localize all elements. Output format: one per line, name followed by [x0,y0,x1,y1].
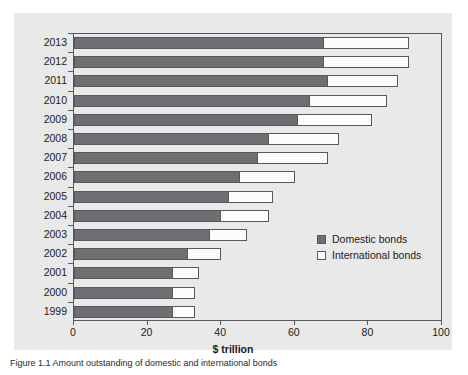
x-tick-label: 20 [141,326,153,338]
bar-row [74,303,441,322]
y-tick-label: 2008 [44,129,67,148]
y-tick-mark [68,302,73,303]
legend-label-international: International bonds [332,249,421,261]
x-tick-label: 60 [288,326,300,338]
y-tick-label: 2004 [44,206,67,225]
legend-label-domestic: Domestic bonds [332,233,407,245]
y-tick-label: 2006 [44,167,67,186]
bar-segment-international [173,306,195,318]
bar-row [74,207,441,226]
y-tick-label: 2005 [44,187,67,206]
x-tick-label: 80 [362,326,374,338]
y-tick-label: 2000 [44,283,67,302]
bar-segment-international [269,133,339,145]
international-swatch-icon [317,251,326,260]
figure-container: 2013201220112010200920082007200620052004… [0,0,468,375]
bar-segment-domestic [74,56,324,68]
bar-segment-international [173,267,199,279]
x-tick-mark [220,321,221,325]
figure-caption: Figure 1.1 Amount outstanding of domesti… [10,358,462,369]
x-tick-mark [147,321,148,325]
bar-segment-domestic [74,95,310,107]
y-tick-label: 2001 [44,263,67,282]
legend-item-domestic: Domestic bonds [317,233,421,245]
bar-row [74,264,441,283]
bar-segment-domestic [74,210,221,222]
bar-rows [74,34,441,320]
bar-segment-domestic [74,75,328,87]
bar-row [74,284,441,303]
stacked-bar [74,152,328,164]
bar-row [74,111,441,130]
y-tick-label: 2011 [44,71,67,90]
bar-segment-domestic [74,171,240,183]
bar-segment-domestic [74,306,173,318]
stacked-bar [74,210,269,222]
y-tick-mark [68,110,73,111]
stacked-bar [74,37,409,49]
x-tick-mark [73,321,74,325]
x-tick-label: 0 [70,326,76,338]
caption-text: Figure 1.1 Amount outstanding of domesti… [10,358,277,368]
stacked-bar [74,133,339,145]
y-tick-label: 2003 [44,225,67,244]
y-tick-mark [68,263,73,264]
bar-segment-domestic [74,133,269,145]
bar-row [74,130,441,149]
bar-segment-domestic [74,287,173,299]
y-axis-labels: 2013201220112010200920082007200620052004… [28,33,70,321]
x-tick-mark [367,321,368,325]
y-tick-mark [68,91,73,92]
bar-segment-domestic [74,152,258,164]
stacked-bar [74,191,273,203]
stacked-bar [74,248,221,260]
bar-segment-domestic [74,191,229,203]
x-axis-ticks: 020406080100 [14,321,452,345]
bar-segment-domestic [74,267,173,279]
y-tick-label: 1999 [44,302,67,321]
bar-row [74,92,441,111]
y-tick-label: 2013 [44,33,67,52]
stacked-bar [74,114,372,126]
stacked-bar [74,306,195,318]
y-tick-label: 2007 [44,148,67,167]
chart-legend: Domestic bonds International bonds [317,233,421,265]
bar-segment-international [240,171,295,183]
stacked-bar [74,56,409,68]
bar-segment-international [298,114,372,126]
bar-row [74,188,441,207]
y-tick-mark [68,167,73,168]
y-tick-mark [68,71,73,72]
stacked-bar [74,267,199,279]
bar-segment-international [324,37,409,49]
plot-area [73,33,442,321]
bar-segment-international [324,56,409,68]
bar-row [74,149,441,168]
stacked-bar [74,95,387,107]
stacked-bar [74,75,398,87]
y-tick-mark [68,148,73,149]
bar-segment-international [229,191,273,203]
y-tick-mark [68,52,73,53]
bar-segment-international [221,210,269,222]
bar-segment-international [188,248,221,260]
bar-segment-international [258,152,328,164]
bar-segment-international [210,229,247,241]
domestic-swatch-icon [317,235,326,244]
y-tick-mark [68,206,73,207]
y-tick-mark [68,129,73,130]
x-tick-mark [441,321,442,325]
bar-segment-international [173,287,195,299]
bar-row [74,53,441,72]
bar-row [74,34,441,53]
bar-segment-international [328,75,398,87]
bar-segment-domestic [74,37,324,49]
chart-panel: 2013201220112010200920082007200620052004… [14,13,452,350]
bar-row [74,168,441,187]
x-tick-mark [294,321,295,325]
y-tick-label: 2009 [44,110,67,129]
y-tick-mark [68,33,73,34]
y-tick-mark [68,244,73,245]
bar-segment-domestic [74,229,210,241]
stacked-bar [74,171,295,183]
